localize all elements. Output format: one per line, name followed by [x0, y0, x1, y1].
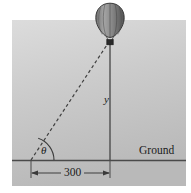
height-label: y [104, 94, 109, 105]
figure-container: Ground y θ 300 [0, 0, 191, 193]
balloon-basket-icon [107, 40, 113, 45]
ground-label: Ground [139, 145, 174, 157]
angle-label: θ [41, 145, 46, 156]
base-dimension-label: 300 [64, 167, 81, 179]
balloon-diagram-svg [0, 0, 191, 193]
